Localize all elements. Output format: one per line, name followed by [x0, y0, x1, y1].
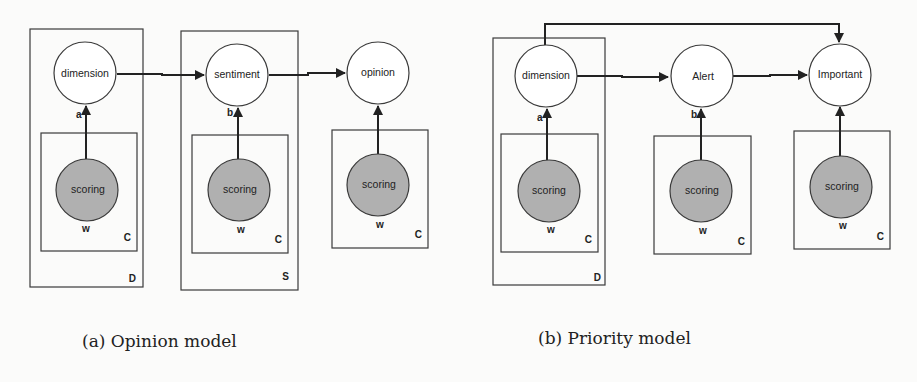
caption-priority-model: (b) Priority model — [538, 328, 691, 348]
node-label: scoring — [825, 180, 859, 192]
node-dimension: dimension — [515, 45, 577, 107]
node-label: dimension — [61, 67, 109, 79]
edge-label-b: b — [691, 109, 697, 120]
observed-var-label-w: w — [375, 219, 384, 230]
plate-label-C: C — [585, 234, 592, 245]
node-label: dimension — [522, 69, 570, 81]
edge-dimension-to-sentiment — [117, 74, 204, 75]
node-label: opinion — [361, 66, 395, 78]
observed-var-label-w: w — [838, 220, 847, 231]
subfigure-b-priority-model: D C C C a b dimension Alert Important — [493, 24, 890, 285]
node-label: scoring — [532, 184, 566, 196]
edge-label-b: b — [227, 107, 233, 118]
plate-label-C: C — [275, 234, 282, 245]
node-scoring-observed: scoring w — [347, 154, 409, 230]
plate-label-C: C — [738, 236, 745, 247]
node-scoring-observed: scoring w — [810, 156, 872, 231]
plate-label-C: C — [415, 229, 422, 240]
node-label: scoring — [362, 178, 396, 190]
observed-var-label-w: w — [546, 224, 555, 235]
node-important: Important — [809, 44, 871, 106]
observed-var-label-w: w — [81, 223, 90, 234]
observed-var-label-w: w — [698, 225, 707, 236]
node-label: sentiment — [214, 68, 260, 80]
observed-var-label-w: w — [236, 224, 245, 235]
plate-label-D: D — [594, 272, 601, 283]
node-label: scoring — [223, 183, 257, 195]
node-label: Alert — [692, 70, 714, 82]
node-sentiment: sentiment — [206, 44, 268, 106]
edge-label-a: a — [537, 112, 543, 123]
plate-label-C: C — [877, 231, 884, 242]
node-scoring-observed: scoring w — [670, 160, 732, 236]
node-label: Important — [818, 68, 862, 80]
plate-label-D: D — [129, 273, 136, 284]
node-label: scoring — [71, 183, 105, 195]
figure-diagram: D C S C C a b dimension sentiment opinio… — [0, 0, 917, 382]
plate-label-S: S — [282, 271, 289, 282]
edge-label-a: a — [76, 109, 82, 120]
node-scoring-observed: scoring w — [56, 159, 118, 234]
node-dimension: dimension — [54, 42, 116, 104]
node-scoring-observed: scoring w — [208, 159, 270, 235]
node-alert: Alert — [671, 45, 733, 107]
edge-alert-to-important — [732, 75, 807, 76]
edge-dimension-to-important-over-top — [545, 24, 839, 45]
caption-opinion-model: (a) Opinion model — [82, 331, 237, 351]
edge-sentiment-to-opinion — [269, 73, 345, 75]
edge-dimension-to-alert — [577, 76, 668, 77]
node-scoring-observed: scoring w — [518, 160, 580, 235]
node-opinion: opinion — [347, 42, 409, 104]
plate-label-C: C — [124, 232, 131, 243]
node-label: scoring — [685, 184, 719, 196]
subfigure-a-opinion-model: D C S C C a b dimension sentiment opinio… — [30, 29, 428, 290]
